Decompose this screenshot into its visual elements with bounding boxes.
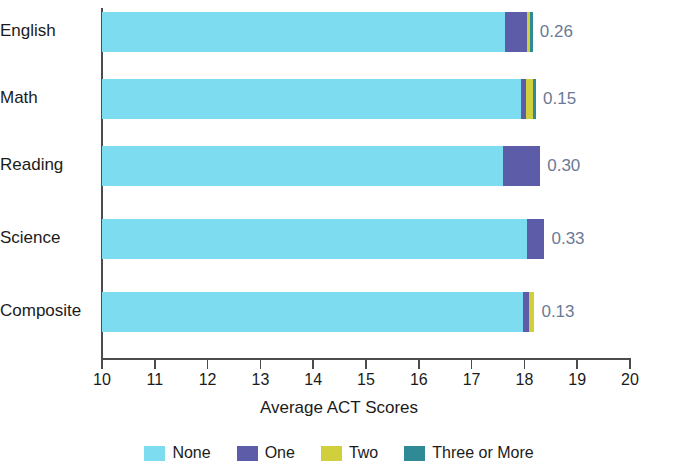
- bar-segment-none: [102, 292, 523, 332]
- legend-swatch: [404, 446, 425, 461]
- x-axis-tick-label: 13: [251, 371, 269, 389]
- x-axis-tick: [524, 360, 526, 369]
- category-label-english: English: [0, 21, 96, 41]
- bar-segment-two: [529, 292, 535, 332]
- legend-label: Three or More: [432, 444, 533, 462]
- legend-label: One: [265, 444, 295, 462]
- x-axis-tick-label: 12: [199, 371, 217, 389]
- x-axis-tick-label: 15: [357, 371, 375, 389]
- x-axis-tick: [207, 360, 209, 369]
- x-axis-tick-label: 14: [304, 371, 322, 389]
- bar-segment-one: [527, 219, 544, 259]
- x-axis-tick-label: 17: [463, 371, 481, 389]
- x-axis-tick-label: 18: [515, 371, 533, 389]
- bar-reading: [102, 146, 540, 186]
- legend-item-two: Two: [321, 444, 378, 462]
- bar-english: [102, 12, 533, 52]
- legend-item-none: None: [144, 444, 210, 462]
- x-axis-tick-label: 10: [93, 371, 111, 389]
- bar-science: [102, 219, 544, 259]
- value-label-english: 0.26: [540, 22, 573, 42]
- value-label-reading: 0.30: [547, 156, 580, 176]
- value-label-composite: 0.13: [541, 302, 574, 322]
- legend-item-one: One: [237, 444, 295, 462]
- x-axis-tick: [471, 360, 473, 369]
- category-label-reading: Reading: [0, 155, 96, 175]
- x-axis-tick-label: 19: [568, 371, 586, 389]
- x-axis-tick: [365, 360, 367, 369]
- x-axis-tick-label: 16: [410, 371, 428, 389]
- x-axis-tick-label: 11: [146, 371, 163, 389]
- x-axis-tick: [312, 360, 314, 369]
- legend-label: Two: [349, 444, 378, 462]
- value-label-math: 0.15: [543, 89, 576, 109]
- bar-segment-three-or-more: [530, 12, 533, 52]
- bar-math: [102, 79, 536, 119]
- category-label-text: English: [0, 21, 56, 40]
- x-axis-tick: [154, 360, 156, 369]
- category-label-composite: Composite: [0, 301, 96, 321]
- act-scores-stacked-bar-chart: EnglishMathReadingScienceComposite 10111…: [0, 0, 678, 466]
- bar-segment-none: [102, 79, 521, 119]
- x-axis-tick: [260, 360, 262, 369]
- legend-label: None: [172, 444, 210, 462]
- bar-segment-one: [505, 12, 527, 52]
- legend-item-three-or-more: Three or More: [404, 444, 533, 462]
- bar-segment-none: [102, 146, 503, 186]
- x-axis-tick: [629, 360, 631, 369]
- bar-composite: [102, 292, 534, 332]
- chart-legend: NoneOneTwoThree or More: [0, 444, 678, 462]
- bar-segment-three-or-more: [533, 79, 536, 119]
- x-axis-tick-label: 20: [621, 371, 639, 389]
- value-label-science: 0.33: [551, 229, 584, 249]
- category-label-text: Math: [0, 88, 38, 107]
- category-label-text: Reading: [0, 155, 63, 174]
- category-label-text: Science: [0, 228, 60, 247]
- x-axis-tick: [576, 360, 578, 369]
- bar-segment-none: [102, 12, 505, 52]
- category-label-text: Composite: [0, 301, 81, 320]
- bar-segment-none: [102, 219, 527, 259]
- x-axis-tick: [101, 360, 103, 369]
- legend-swatch: [144, 446, 165, 461]
- legend-swatch: [237, 446, 258, 461]
- x-axis-title: Average ACT Scores: [0, 398, 678, 418]
- x-axis-tick: [418, 360, 420, 369]
- bar-segment-one: [503, 146, 540, 186]
- category-label-science: Science: [0, 228, 96, 248]
- category-label-math: Math: [0, 88, 96, 108]
- legend-swatch: [321, 446, 342, 461]
